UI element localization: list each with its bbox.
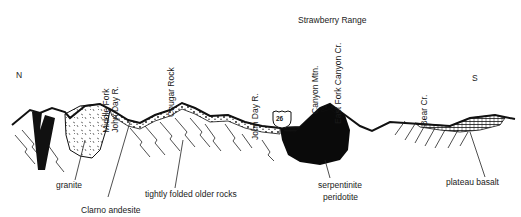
label-serpentinite: serpentinite — [318, 181, 362, 190]
label-canyon-mtn: Canyon Mtn. — [311, 66, 320, 114]
label-bear-cr: Bear Cr. — [420, 95, 429, 126]
label-peridotite: peridotite — [323, 193, 358, 202]
label-john-day-r: John Day R. — [251, 93, 260, 140]
label-middle-fork: Middle ForkJohn Day R. — [102, 86, 120, 133]
label-cougar-rock: Cougar Rock — [167, 67, 176, 117]
label-granite: granite — [56, 181, 82, 190]
range-title: Strawberry Range — [298, 16, 367, 25]
geologic-cross-section: Strawberry Range N S 26 Middle ForkJohn … — [0, 0, 521, 217]
highway-number: 26 — [276, 116, 283, 123]
label-folded-rocks: tightly folded older rocks — [145, 190, 237, 199]
label-plateau-basalt: plateau basalt — [446, 178, 499, 187]
south-label: S — [472, 74, 478, 83]
label-clarno-andesite: Clarno andesite — [81, 206, 141, 215]
north-label: N — [16, 71, 22, 80]
dike — [32, 112, 55, 170]
label-east-fork: East Fork Canyon Cr. — [334, 43, 343, 124]
